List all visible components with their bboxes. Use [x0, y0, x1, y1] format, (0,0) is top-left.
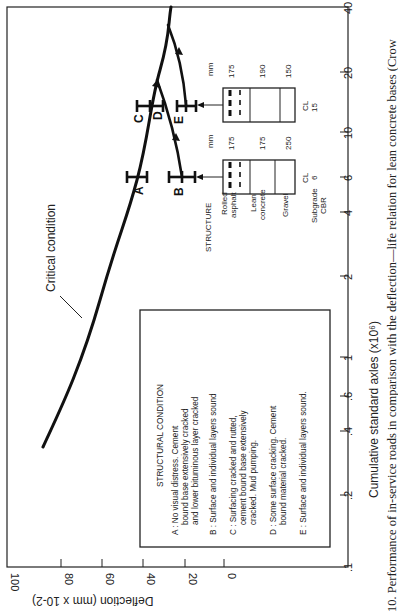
deflection-tick-80: 80 [63, 573, 75, 585]
deflection-tick-100: 100 [9, 573, 21, 591]
e-trend-curve [168, 25, 186, 105]
axles-tick-2: 2 [342, 274, 354, 280]
legend-a-line-2: bound base extensively cracked [181, 408, 190, 525]
axles-tick-40: 40 [342, 2, 354, 14]
cbr-label: CBR [319, 197, 328, 214]
axles-axis: .1 .2 .4 .6 1 2 4 6 10 20 40 Cumulative … [340, 2, 381, 572]
layer-label-rolled: Rolled [220, 192, 229, 215]
legend-c-line-3: cracked. Mud pumping. [249, 440, 258, 525]
b-trend-curve [157, 80, 182, 177]
point-label-c: C [132, 114, 146, 123]
axles-tick-20: 20 [342, 67, 354, 79]
unit-label-2: mm [206, 62, 215, 76]
deflection-tick-20: 20 [187, 573, 199, 585]
axles-tick-0.2: .2 [342, 491, 354, 500]
deflection-tick-0: 0 [226, 573, 238, 579]
structure-section-cl15 [223, 88, 295, 122]
axles-tick-0.4: .4 [342, 427, 354, 436]
legend-a-line-1: A : No visual distress. Cement [171, 425, 180, 535]
point-e [177, 100, 196, 112]
deflection-axis: 100 80 60 40 20 0 Deflection (mm x 10-2) [9, 559, 238, 608]
point-cd [137, 100, 163, 112]
legend: STRUCTURAL CONDITION A : No visual distr… [156, 384, 308, 535]
legend-a-line-3: and lower bituminous layer cracked [191, 396, 200, 525]
legend-c-line-1: C : Surfacing cracked and rutted, [229, 415, 238, 535]
point-label-a: A [132, 186, 146, 195]
layer-label-lean: Lean [249, 194, 258, 212]
cbr-1-value: 6 [310, 175, 319, 180]
layer-label-gravel: Gravel [281, 193, 290, 217]
layer-label-asphalt: asphalt [229, 191, 238, 218]
point-label-b: B [172, 187, 186, 196]
axles-tick-6: 6 [342, 175, 354, 181]
structure-1-arrow-icon [196, 174, 203, 180]
thickness-2-concrete: 190 [258, 64, 267, 78]
structure-section-cl6 [223, 160, 295, 194]
deflection-tick-40: 40 [145, 573, 157, 585]
critical-condition-curve [43, 7, 171, 447]
point-label-e: E [172, 116, 186, 124]
point-label-d: D [151, 111, 165, 120]
axles-tick-1: 1 [342, 355, 354, 361]
thickness-1-concrete: 175 [258, 136, 267, 150]
legend-b-line-1: B : Surface and individual layers sound [209, 393, 218, 535]
layer-label-concrete: concrete [258, 189, 267, 220]
thickness-1-asphalt: 175 [227, 136, 236, 150]
axles-tick-0.6: .6 [342, 392, 354, 401]
thickness-1-gravel: 250 [284, 136, 293, 150]
cbr-1-cl: CL [301, 172, 310, 183]
critical-condition-label: Critical condition [44, 204, 58, 292]
axles-axis-label: Cumulative standard axles (x10⁶) [367, 321, 381, 498]
legend-d-line-1: D : Some surface cracking. Cement [269, 405, 278, 535]
axles-tick-4: 4 [342, 210, 354, 216]
figure-caption: 10. Performance of in-service roads in c… [385, 39, 398, 612]
legend-c-line-2: cement bound base extensively [239, 409, 248, 525]
structure-title: STRUCTURE [204, 203, 213, 252]
cbr-2-value: 15 [310, 103, 319, 112]
legend-e-line-1: E : Surface and individual layers sound. [299, 391, 308, 535]
chart-canvas: 100 80 60 40 20 0 Deflection (mm x 10-2)… [0, 0, 398, 615]
structure-2-arrow-icon [197, 102, 204, 108]
subgrade-label: Subgrade [310, 188, 319, 223]
axles-tick-0.1: .1 [342, 563, 354, 572]
critical-condition-pointer [60, 296, 82, 318]
unit-label-1: mm [206, 134, 215, 148]
legend-d-line-2: bound material cracked. [279, 438, 288, 525]
legend-title: STRUCTURAL CONDITION [156, 384, 165, 487]
axles-tick-10: 10 [342, 127, 354, 139]
thickness-2-gravel: 150 [284, 64, 293, 78]
deflection-axis-label: Deflection (mm x 10-2) [32, 594, 153, 608]
cbr-2-cl: CL [301, 100, 310, 111]
thickness-2-asphalt: 175 [227, 64, 236, 78]
point-b [169, 171, 195, 183]
deflection-tick-60: 60 [104, 573, 116, 585]
